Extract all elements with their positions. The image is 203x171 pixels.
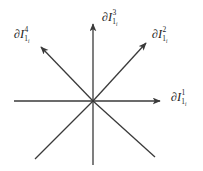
ray-northeast	[93, 43, 146, 101]
axis-label-3: ∂I31i	[102, 10, 121, 24]
axis-subsubscript-2: i	[166, 38, 167, 44]
axis-label-1: ∂I11i	[171, 90, 190, 104]
axis-superscript-3: 3	[113, 8, 117, 17]
ray-southwest	[35, 101, 93, 159]
ray-northwest	[41, 47, 93, 101]
ray-southeast	[93, 101, 155, 157]
axis-subsubscript-3: i	[116, 21, 117, 27]
ray-diagram-svg	[0, 0, 203, 171]
axis-label-2: ∂I21i	[152, 27, 171, 41]
axis-subscript-2-wrap: 1i	[162, 35, 167, 43]
axis-label-4: ∂I41i	[14, 27, 33, 41]
axis-superscript-2: 2	[163, 25, 167, 34]
figure-canvas: ∂I11i ∂I21i ∂I31i ∂I41i	[0, 0, 203, 171]
axis-subscript-1-wrap: 1i	[181, 98, 186, 106]
axis-superscript-4: 4	[25, 25, 29, 34]
ray-group	[14, 24, 160, 165]
axis-superscript-1: 1	[182, 88, 186, 97]
axis-subsubscript-4: i	[28, 38, 29, 44]
axis-subscript-4-wrap: 1i	[24, 35, 29, 43]
axis-subsubscript-1: i	[185, 101, 186, 107]
axis-subscript-3-wrap: 1i	[112, 18, 117, 26]
